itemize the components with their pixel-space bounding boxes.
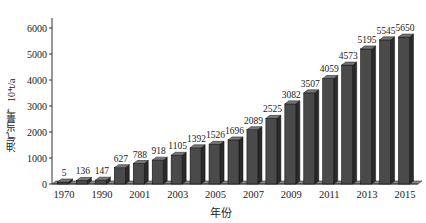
bar [152, 157, 167, 184]
y-tick-label: 4000 [27, 75, 47, 86]
y-tick-label: 0 [42, 179, 47, 190]
bar [228, 137, 243, 184]
data-label: 3082 [282, 90, 301, 100]
data-label: 788 [133, 150, 148, 160]
data-label: 918 [152, 146, 167, 156]
x-tick-label: 2011 [319, 189, 340, 200]
bar [209, 141, 224, 184]
bar [285, 101, 300, 184]
x-tick-label: 2005 [205, 189, 226, 200]
bar [190, 145, 205, 184]
x-tick-label: 2013 [357, 189, 378, 200]
x-tick-label: 2001 [129, 189, 150, 200]
y-tick-label: 1000 [27, 153, 47, 164]
x-tick-label: 1990 [91, 189, 112, 200]
bar [323, 75, 338, 184]
data-label: 147 [95, 166, 110, 176]
data-label: 5545 [377, 26, 396, 36]
x-tick-label: 2003 [167, 189, 188, 200]
bar [171, 152, 186, 184]
data-label: 1526 [206, 130, 225, 140]
y-tick-label: 5000 [27, 49, 47, 60]
bar [399, 34, 414, 184]
data-label: 5 [62, 168, 67, 178]
y-tick-label: 2000 [27, 127, 47, 138]
bar [266, 115, 281, 184]
bar [133, 161, 148, 184]
data-label: 627 [114, 154, 129, 164]
data-label: 1105 [168, 141, 187, 151]
data-label: 1696 [225, 126, 244, 136]
bar [247, 127, 262, 184]
x-tick-label: 1970 [54, 189, 75, 200]
y-tick-label: 6000 [27, 23, 47, 34]
x-tick-label: 2009 [281, 189, 302, 200]
data-label: 5195 [358, 35, 377, 45]
bar [114, 165, 129, 184]
data-label: 1392 [187, 134, 206, 144]
x-axis-title: 年份 [210, 204, 232, 220]
bar [304, 90, 319, 184]
x-tick-label: 2007 [243, 189, 264, 200]
bar-chart: 0100020003000400050006000513614762778891… [0, 0, 426, 223]
bar [380, 37, 395, 184]
bar [95, 177, 110, 184]
x-tick-label: 2015 [395, 189, 416, 200]
data-label: 5650 [396, 23, 415, 33]
data-label: 3507 [301, 79, 320, 89]
data-label: 4573 [339, 51, 358, 61]
data-label: 136 [76, 166, 91, 176]
data-label: 2525 [263, 104, 282, 114]
bar [361, 46, 376, 184]
y-tick-label: 3000 [27, 101, 47, 112]
data-label: 4059 [320, 64, 339, 74]
y-axis-title: 油气当量，10⁴t/a [4, 60, 20, 170]
bar [342, 62, 357, 184]
data-label: 2089 [244, 116, 263, 126]
